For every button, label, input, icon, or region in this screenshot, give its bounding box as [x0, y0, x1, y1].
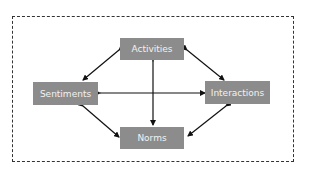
node-interactions-label: Interactions	[211, 88, 265, 98]
arrow-sentiments-norms	[83, 106, 119, 137]
arrow-activities-interactions	[187, 50, 224, 80]
arrow-interactions-norms	[188, 106, 226, 136]
node-sentiments-label: Sentiments	[40, 89, 91, 99]
node-norms: Norms	[120, 127, 184, 149]
node-activities: Activities	[120, 38, 184, 60]
node-norms-label: Norms	[137, 133, 166, 143]
arrow-activities-sentiments	[83, 50, 119, 80]
node-interactions: Interactions	[205, 81, 270, 104]
node-activities-label: Activities	[131, 44, 172, 54]
node-sentiments: Sentiments	[33, 82, 98, 105]
